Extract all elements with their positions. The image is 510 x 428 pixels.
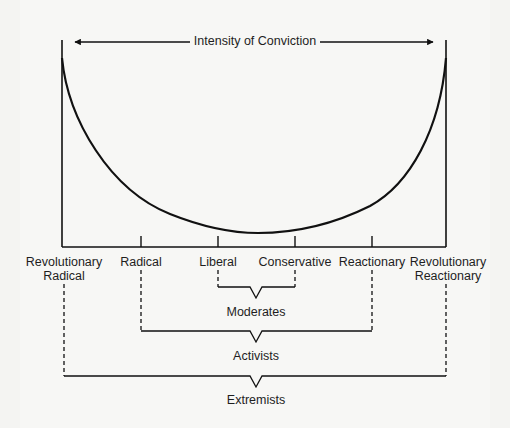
axis-title: Intensity of Conviction bbox=[192, 34, 318, 48]
extremists-bracket bbox=[64, 284, 446, 387]
label-line-2: Radical bbox=[26, 269, 102, 283]
label-radical: Radical bbox=[120, 255, 162, 269]
label-line-2: Reactionary bbox=[410, 269, 486, 283]
group-label-moderates: Moderates bbox=[226, 305, 285, 319]
moderates-bracket bbox=[218, 270, 295, 298]
conviction-curve bbox=[62, 58, 446, 233]
group-label-activists: Activists bbox=[233, 349, 279, 363]
spectrum-diagram bbox=[0, 0, 510, 428]
baseline-ticks bbox=[141, 236, 372, 247]
label-reactionary: Reactionary bbox=[339, 255, 406, 269]
label-revolutionary-reactionary: Revolutionary Reactionary bbox=[410, 255, 486, 283]
label-line-1: Revolutionary bbox=[26, 255, 102, 269]
group-label-extremists: Extremists bbox=[227, 393, 285, 407]
label-line-1: Revolutionary bbox=[410, 255, 486, 269]
label-revolutionary-radical: Revolutionary Radical bbox=[26, 255, 102, 283]
spectrum-frame bbox=[62, 40, 446, 247]
label-conservative: Conservative bbox=[259, 255, 332, 269]
label-liberal: Liberal bbox=[199, 255, 237, 269]
